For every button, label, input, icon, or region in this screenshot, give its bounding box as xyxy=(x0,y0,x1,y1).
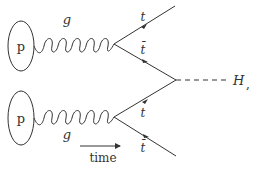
gluon-bottom-label: g xyxy=(63,127,71,142)
gluon-top-label: g xyxy=(63,12,71,27)
antitop-label-lower: t̄ xyxy=(141,139,147,155)
proton-top: p xyxy=(8,21,34,71)
trailing-comma: , xyxy=(246,77,250,91)
gluon-top xyxy=(34,39,114,53)
top-quark-label-upper: t xyxy=(141,10,146,24)
higgs-label: H xyxy=(232,73,245,88)
proton-bottom: p xyxy=(8,91,34,145)
time-label: time xyxy=(89,151,116,165)
top-quark-label-lower: t xyxy=(141,106,146,120)
proton-bottom-label: p xyxy=(17,111,25,126)
antitop-label-upper: t̄ xyxy=(141,41,147,57)
proton-top-label: p xyxy=(17,39,25,54)
gluon-bottom xyxy=(34,111,114,125)
feynman-diagram: p p g g t t̄ t t̄ H , time xyxy=(0,0,259,172)
